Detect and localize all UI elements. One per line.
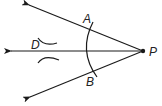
label-b: B <box>86 75 94 89</box>
label-a: A <box>82 12 91 26</box>
angle-bisector-diagram: A B D P <box>0 0 162 106</box>
label-p: P <box>149 45 157 59</box>
arc-d-lower <box>38 58 59 63</box>
arc-d-upper <box>38 38 57 44</box>
label-d: D <box>31 38 40 52</box>
vertex-p-dot <box>141 49 145 53</box>
